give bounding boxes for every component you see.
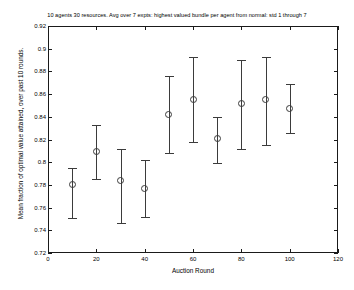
chart-title: 10 agents 30 resources. Avg over 7 expts… — [0, 12, 354, 19]
y-axis-tick — [334, 49, 338, 50]
x-axis-tick — [290, 249, 291, 253]
error-bar-cap — [262, 57, 271, 58]
error-bar-cap — [165, 76, 174, 77]
x-axis-tick — [241, 249, 242, 253]
data-point-marker — [238, 100, 245, 107]
error-bar-cap — [165, 153, 174, 154]
x-axis-label: Auction Round — [48, 267, 338, 274]
x-axis-tick — [193, 249, 194, 253]
x-axis-tick — [48, 26, 49, 30]
y-axis-tick — [334, 208, 338, 209]
y-axis-tick — [334, 140, 338, 141]
error-bar-cap — [286, 84, 295, 85]
error-bar-line — [121, 149, 122, 224]
y-axis-tick — [48, 71, 52, 72]
error-bar-line — [72, 168, 73, 218]
y-axis-tick — [334, 253, 338, 254]
error-bar-cap — [213, 117, 222, 118]
y-axis-tick — [48, 253, 52, 254]
data-point-marker — [141, 185, 148, 192]
x-axis-tick — [338, 26, 339, 30]
x-axis-tick-label: 100 — [278, 256, 302, 262]
y-axis-tick — [334, 71, 338, 72]
x-axis-tick-label: 60 — [181, 256, 205, 262]
data-point-marker — [214, 135, 221, 142]
x-axis-tick — [193, 26, 194, 30]
y-axis-tick — [48, 230, 52, 231]
y-axis-tick — [48, 185, 52, 186]
x-axis-tick — [145, 249, 146, 253]
error-bar-cap — [237, 60, 246, 61]
error-bar-cap — [68, 168, 77, 169]
error-bar-cap — [117, 223, 126, 224]
error-bar-cap — [117, 149, 126, 150]
y-axis-tick — [334, 162, 338, 163]
error-bar-cap — [92, 125, 101, 126]
error-bar-cap — [141, 217, 150, 218]
x-axis-tick — [241, 26, 242, 30]
x-axis-tick-label: 120 — [326, 256, 350, 262]
y-axis-tick — [334, 117, 338, 118]
y-axis-tick — [48, 140, 52, 141]
x-axis-tick-label: 0 — [36, 256, 60, 262]
x-axis-tick — [338, 249, 339, 253]
x-axis-tick-label: 40 — [133, 256, 157, 262]
x-axis-tick — [96, 249, 97, 253]
data-point-marker — [190, 96, 197, 103]
x-axis-tick — [145, 26, 146, 30]
x-axis-tick — [48, 249, 49, 253]
error-bar-cap — [286, 133, 295, 134]
error-bar-cap — [213, 163, 222, 164]
y-axis-tick — [48, 162, 52, 163]
error-bar-cap — [237, 149, 246, 150]
y-axis-tick — [334, 94, 338, 95]
y-axis-tick — [48, 208, 52, 209]
y-axis-tick — [48, 117, 52, 118]
x-axis-tick — [290, 26, 291, 30]
y-axis-tick — [334, 185, 338, 186]
y-axis-label: Mean fraction of optimal value attained,… — [17, 19, 24, 249]
y-axis-tick — [48, 49, 52, 50]
x-axis-tick-label: 80 — [229, 256, 253, 262]
error-bar-cap — [189, 57, 198, 58]
chart-figure: 10 agents 30 resources. Avg over 7 expts… — [0, 0, 354, 290]
error-bar-cap — [92, 179, 101, 180]
error-bar-cap — [262, 145, 271, 146]
error-bar-cap — [189, 142, 198, 143]
x-axis-tick — [96, 26, 97, 30]
data-point-marker — [117, 177, 124, 184]
error-bar-cap — [141, 160, 150, 161]
y-axis-tick — [334, 230, 338, 231]
y-axis-tick — [48, 94, 52, 95]
error-bar-cap — [68, 218, 77, 219]
x-axis-tick-label: 20 — [84, 256, 108, 262]
